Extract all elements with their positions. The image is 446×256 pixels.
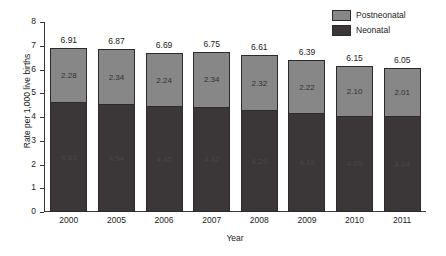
x-tick-label: 2010 [335, 215, 375, 225]
bar-column[interactable]: 6.392.224.18 [287, 22, 327, 212]
bar-segment-postneonatal[interactable]: 2.28 [50, 48, 87, 102]
x-tick-label: 2000 [49, 215, 89, 225]
bar-stack[interactable]: 2.014.04 [384, 68, 421, 212]
bar-segment-neonatal[interactable]: 4.45 [146, 106, 183, 212]
bar-column[interactable]: 6.152.104.05 [335, 22, 375, 212]
legend-item-postneonatal: Postneonatal [332, 9, 444, 22]
bar-segment-postneonatal[interactable]: 2.22 [288, 60, 325, 113]
y-tick-label: 1 [31, 182, 36, 193]
bar-segment-postneonatal[interactable]: 2.32 [241, 55, 278, 110]
bar-segment-value: 4.18 [299, 158, 315, 167]
bar-segment-value: 2.22 [299, 83, 315, 92]
x-axis-ticks: 20002005200620072008200920102011 [45, 215, 426, 225]
bar-total-label: 6.15 [346, 53, 363, 63]
x-tick-label: 2006 [144, 215, 184, 225]
stacked-bar-chart: Postneonatal Neonatal Rate per 1,000 liv… [0, 0, 446, 256]
y-tick-label: 3 [31, 135, 36, 146]
y-tick: 2 [40, 165, 44, 166]
bar-segment-value: 2.32 [252, 79, 268, 88]
bar-column[interactable]: 6.912.284.63 [49, 22, 89, 212]
bar-segment-value: 4.63 [61, 153, 77, 162]
x-tick-label: 2005 [96, 215, 136, 225]
bar-segment-neonatal[interactable]: 4.63 [50, 102, 87, 212]
bar-segment-value: 4.29 [252, 157, 268, 166]
bar-stack[interactable]: 2.344.54 [98, 49, 135, 212]
bar-column[interactable]: 6.052.014.04 [382, 22, 422, 212]
bar-stack[interactable]: 2.344.42 [193, 52, 230, 212]
bar-segment-postneonatal[interactable]: 2.34 [98, 49, 135, 104]
y-tick: 6 [40, 70, 44, 71]
y-tick: 8 [40, 22, 44, 23]
x-tick-label: 2007 [192, 215, 232, 225]
x-tick-label: 2008 [239, 215, 279, 225]
bar-segment-value: 2.24 [156, 76, 172, 85]
y-tick: 5 [40, 93, 44, 94]
bar-column[interactable]: 6.612.324.29 [239, 22, 279, 212]
y-tick-label: 6 [31, 64, 36, 75]
bar-stack[interactable]: 2.104.05 [336, 66, 373, 212]
bar-total-label: 6.91 [61, 35, 78, 45]
bar-stack[interactable]: 2.284.63 [50, 48, 87, 212]
bar-total-label: 6.69 [156, 40, 173, 50]
legend-label-postneonatal: Postneonatal [356, 11, 406, 20]
bar-segment-value: 2.28 [61, 71, 77, 80]
bar-segment-value: 4.54 [109, 154, 125, 163]
bar-segment-postneonatal[interactable]: 2.01 [384, 68, 421, 116]
bar-segment-value: 2.10 [347, 87, 363, 96]
bar-segment-value: 4.42 [204, 155, 220, 164]
bar-segment-neonatal[interactable]: 4.29 [241, 110, 278, 212]
x-tick-label: 2011 [382, 215, 422, 225]
bar-total-label: 6.75 [203, 39, 220, 49]
bar-segment-postneonatal[interactable]: 2.24 [146, 53, 183, 106]
bar-total-label: 6.39 [299, 47, 316, 57]
y-tick-label: 0 [31, 206, 36, 217]
bar-column[interactable]: 6.692.244.45 [144, 22, 184, 212]
bar-segment-neonatal[interactable]: 4.18 [288, 113, 325, 212]
bar-segment-value: 2.01 [394, 88, 410, 97]
bar-stack[interactable]: 2.244.45 [146, 53, 183, 212]
y-tick-label: 2 [31, 159, 36, 170]
x-tick-label: 2009 [287, 215, 327, 225]
bar-stack[interactable]: 2.224.18 [288, 60, 325, 212]
plot-area: 012345678 6.912.284.636.872.344.546.692.… [44, 22, 426, 212]
bar-group: 6.912.284.636.872.344.546.692.244.456.75… [45, 22, 426, 212]
bar-column[interactable]: 6.752.344.42 [192, 22, 232, 212]
y-tick: 1 [40, 188, 44, 189]
bar-total-label: 6.87 [108, 36, 125, 46]
bar-total-label: 6.05 [394, 55, 411, 65]
bar-segment-value: 4.45 [156, 155, 172, 164]
bar-segment-value: 4.05 [347, 159, 363, 168]
bar-total-label: 6.61 [251, 42, 268, 52]
y-tick: 0 [40, 212, 44, 213]
bar-segment-postneonatal[interactable]: 2.34 [193, 52, 230, 107]
y-tick: 3 [40, 141, 44, 142]
x-axis-title: Year [44, 233, 426, 243]
y-tick: 7 [40, 46, 44, 47]
y-tick-label: 4 [31, 111, 36, 122]
bar-segment-value: 4.04 [394, 160, 410, 169]
y-tick-label: 7 [31, 40, 36, 51]
y-tick-label: 8 [31, 16, 36, 27]
bar-column[interactable]: 6.872.344.54 [96, 22, 136, 212]
bar-segment-value: 2.34 [109, 73, 125, 82]
bar-segment-neonatal[interactable]: 4.04 [384, 116, 421, 212]
bar-segment-neonatal[interactable]: 4.54 [98, 104, 135, 212]
y-tick: 4 [40, 117, 44, 118]
y-tick-label: 5 [31, 87, 36, 98]
bar-segment-neonatal[interactable]: 4.05 [336, 116, 373, 212]
legend-swatch-postneonatal-icon [332, 10, 351, 21]
bar-stack[interactable]: 2.324.29 [241, 55, 278, 212]
bar-segment-neonatal[interactable]: 4.42 [193, 107, 230, 212]
bar-segment-value: 2.34 [204, 75, 220, 84]
bar-segment-postneonatal[interactable]: 2.10 [336, 66, 373, 116]
